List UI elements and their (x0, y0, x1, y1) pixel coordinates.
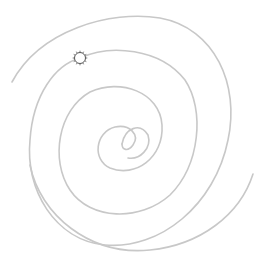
sun-ray (74, 54, 75, 55)
spiral-arms (12, 16, 253, 250)
arm-d (122, 128, 149, 158)
sun-ray (83, 52, 84, 53)
spiral-diagram (0, 0, 265, 277)
sun-icon (73, 51, 88, 66)
sun-ray (76, 63, 77, 64)
sun-marker-disc (75, 53, 86, 64)
sun-ray (76, 52, 77, 53)
sun-ray (85, 61, 86, 62)
sun-ray (83, 63, 84, 64)
